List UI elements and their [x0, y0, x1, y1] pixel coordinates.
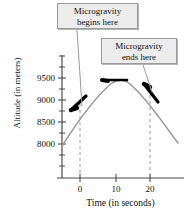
microgravity-altitude-figure: 9500 9000 8500 8000 0 10 20 Microgravity… — [0, 0, 186, 218]
tangent-marker-apex-head — [102, 80, 108, 81]
y-tick-label-9500: 9500 — [37, 73, 56, 83]
callout-begins-line2: begins here — [62, 17, 133, 28]
leader-line-begin — [77, 30, 82, 106]
y-tick-label-8500: 8500 — [37, 117, 56, 127]
x-tick-label-20: 20 — [146, 184, 156, 194]
callout-ends-line1: Microgravity — [106, 41, 172, 52]
x-axis-title: Time (in seconds) — [58, 198, 183, 208]
callout-microgravity-ends: Microgravity ends here — [101, 38, 177, 64]
x-tick-label-10: 10 — [112, 184, 122, 194]
y-axis-title: Altitude (in meters) — [12, 45, 22, 141]
y-tick-label-8000: 8000 — [37, 139, 56, 149]
callout-microgravity-begins: Microgravity begins here — [57, 3, 138, 29]
altitude-curve — [62, 80, 178, 146]
y-tick-label-9000: 9000 — [37, 95, 56, 105]
callout-begins-line1: Microgravity — [62, 6, 133, 17]
chart-canvas: 9500 9000 8500 8000 0 10 20 — [0, 0, 186, 218]
tangent-marker-begin-head — [71, 108, 77, 110]
x-tick-label-0: 0 — [78, 184, 83, 194]
callout-ends-line2: ends here — [106, 52, 172, 63]
